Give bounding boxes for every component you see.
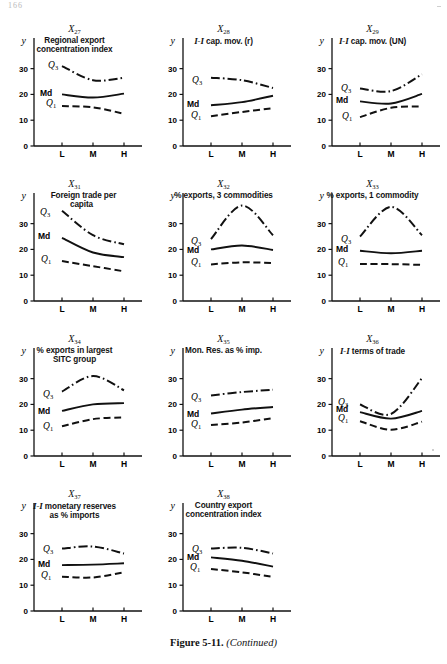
y-tick-label: 20	[168, 90, 177, 99]
series-line-md	[62, 403, 124, 411]
y-tick-label: 0	[173, 607, 178, 616]
series-line-md	[62, 238, 124, 257]
x-tick-label: H	[121, 149, 127, 159]
series-label-md: Md	[336, 95, 348, 105]
y-tick-label: 10	[168, 116, 177, 125]
series-line-q1	[62, 261, 124, 271]
series-label-q3: Q3	[341, 83, 351, 94]
x-tick-label: H	[270, 459, 276, 469]
series-label-md: Md	[187, 552, 199, 562]
series-label-md: Md	[38, 231, 50, 241]
y-axis-label: y	[21, 345, 27, 356]
series-line-q3	[360, 378, 422, 415]
series-label-q3: Q3	[40, 207, 50, 218]
y-axis-label: y	[170, 500, 176, 511]
x-tick-label: H	[121, 304, 127, 314]
x-tick-label: L	[59, 459, 64, 469]
x-tick-label: H	[419, 149, 425, 159]
y-tick-label: 20	[19, 400, 28, 409]
x-tick-label: L	[357, 304, 362, 314]
x-tick-label: M	[89, 304, 96, 314]
series-label-md: Md	[187, 409, 199, 419]
figure-caption-note: (Continued)	[226, 637, 277, 648]
y-tick-label: 30	[168, 375, 177, 384]
y-tick-label: 20	[317, 90, 326, 99]
series-line-q1	[211, 108, 273, 116]
series-line-q1	[211, 569, 273, 577]
x-tick-label: L	[357, 149, 362, 159]
series-line-q3	[360, 74, 422, 91]
y-axis-label: y	[170, 190, 176, 201]
chart-panel-x35: X35Mon. Res. as % imp.0102030yLMHQ3MdQ1	[149, 328, 298, 483]
plot-area: 0102030yLMHQ3MdQ1	[0, 328, 149, 483]
y-tick-label: 30	[317, 65, 326, 74]
series-line-md	[211, 557, 273, 566]
series-line-md	[62, 563, 124, 565]
series-line-q3	[211, 548, 273, 554]
x-tick-label: L	[357, 459, 362, 469]
x-tick-label: M	[238, 614, 245, 624]
y-tick-label: 10	[19, 426, 28, 435]
panel-row: X27Regional exportconcentration index010…	[0, 18, 447, 173]
x-tick-label: H	[270, 614, 276, 624]
series-line-q1	[211, 418, 273, 425]
y-tick-label: 30	[19, 220, 28, 229]
page-speck	[437, 6, 441, 7]
x-tick-label: H	[270, 149, 276, 159]
panel-row: X37I-I monetary reservesas % imports0102…	[0, 483, 447, 638]
series-label-q1: Q1	[41, 570, 51, 581]
page-speck	[432, 449, 434, 451]
y-tick-label: 10	[317, 426, 326, 435]
series-line-q3	[62, 376, 124, 391]
plot-area: 0102030yLMHQ3MdQ1	[298, 173, 447, 328]
series-label-q1: Q1	[191, 257, 201, 268]
chart-panel-x38: X38Country exportconcentration index0102…	[149, 483, 298, 638]
x-tick-label: M	[387, 459, 394, 469]
x-tick-label: M	[89, 614, 96, 624]
y-tick-label: 20	[19, 90, 28, 99]
series-label-q3: Q3	[43, 544, 53, 555]
series-line-q3	[62, 546, 124, 553]
series-label-q1: Q1	[342, 111, 352, 122]
y-tick-label: 0	[173, 452, 178, 461]
plot-area: 0102030yLMHQ3MdQ1	[0, 18, 149, 173]
y-tick-label: 0	[173, 142, 178, 151]
y-tick-label: 0	[24, 297, 29, 306]
x-tick-label: M	[89, 149, 96, 159]
chart-panel-x32: X32% exports, 3 commodities0102030yLMHQ3…	[149, 173, 298, 328]
y-tick-label: 10	[317, 116, 326, 125]
series-line-q1	[62, 417, 124, 426]
chart-panel-x28: X28I-I cap. mov. (r)0102030yLMHQ3MdQ1	[149, 18, 298, 173]
y-tick-label: 30	[168, 220, 177, 229]
series-label-md: Md	[187, 245, 199, 255]
series-label-md: Md	[336, 244, 348, 254]
y-tick-label: 10	[19, 116, 28, 125]
x-tick-label: L	[208, 459, 213, 469]
x-tick-label: L	[208, 614, 213, 624]
x-tick-label: L	[59, 304, 64, 314]
x-tick-label: M	[387, 304, 394, 314]
series-line-md	[62, 94, 124, 98]
y-tick-label: 30	[317, 375, 326, 384]
y-axis-label: y	[21, 190, 27, 201]
series-line-md	[211, 407, 273, 413]
y-tick-label: 30	[168, 530, 177, 539]
y-tick-label: 10	[168, 271, 177, 280]
y-tick-label: 30	[168, 65, 177, 74]
plot-area: 0102030yLMHQ3MdQ1	[0, 483, 149, 638]
plot-area: 0102030yLMHQ3MdQ1	[149, 328, 298, 483]
series-line-q1	[211, 262, 273, 264]
series-line-q1	[360, 264, 422, 265]
series-line-md	[211, 246, 273, 250]
series-label-q1: Q1	[46, 98, 56, 109]
y-tick-label: 0	[24, 142, 29, 151]
series-label-md: Md	[187, 99, 199, 109]
y-tick-label: 20	[317, 245, 326, 254]
x-tick-label: H	[121, 614, 127, 624]
panel-row: X34% exports in largestSITC group0102030…	[0, 328, 447, 483]
x-tick-label: M	[238, 459, 245, 469]
y-tick-label: 0	[322, 452, 327, 461]
y-tick-label: 10	[168, 581, 177, 590]
x-tick-label: L	[59, 149, 64, 159]
y-tick-label: 0	[173, 297, 178, 306]
